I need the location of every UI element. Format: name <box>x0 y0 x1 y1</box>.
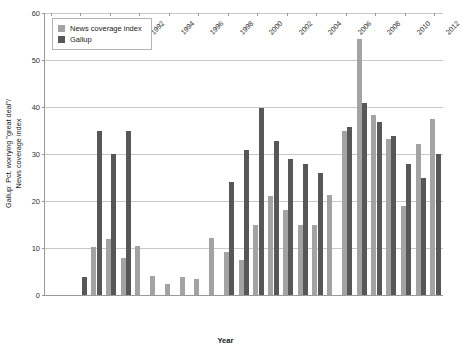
bar-gallup <box>97 131 102 295</box>
x-tick-label: 2012 <box>444 19 462 37</box>
x-tick-label: 2004 <box>326 19 344 37</box>
plot-area: 1986198819901992199419961998200020022004… <box>44 13 443 296</box>
gridline <box>45 13 443 14</box>
x-tick-mark <box>375 13 376 16</box>
legend-label: Gallup <box>70 35 92 44</box>
bar-news-coverage-index <box>253 225 258 296</box>
x-tick-mark <box>346 13 347 16</box>
bar-gallup <box>111 154 116 295</box>
x-tick-mark <box>228 13 229 16</box>
y-tick-label: 0 <box>20 291 40 300</box>
bar-gallup <box>377 122 382 295</box>
bar-gallup <box>259 108 264 295</box>
bar-gallup <box>436 154 441 295</box>
bar-gallup <box>288 159 293 295</box>
legend-item: News coverage index <box>58 23 142 34</box>
bar-news-coverage-index <box>327 195 332 295</box>
chart-legend: News coverage indexGallup <box>52 18 152 50</box>
gridline <box>45 107 443 108</box>
bar-gallup <box>244 150 249 295</box>
bar-news-coverage-index <box>135 246 140 295</box>
bar-news-coverage-index <box>91 247 96 295</box>
x-tick-mark <box>169 13 170 16</box>
bar-news-coverage-index <box>180 277 185 295</box>
legend-swatch-icon <box>58 25 65 32</box>
bar-news-coverage-index <box>268 196 273 295</box>
bar-news-coverage-index <box>150 276 155 295</box>
bar-gallup <box>347 127 352 295</box>
y-tick-label: 30 <box>20 150 40 159</box>
x-tick-label: 1994 <box>178 19 196 37</box>
bar-news-coverage-index <box>386 139 391 295</box>
y-tick-label: 10 <box>20 244 40 253</box>
gridline <box>45 60 443 61</box>
y-tick-mark <box>42 107 45 108</box>
bar-news-coverage-index <box>312 225 317 296</box>
x-tick-mark <box>80 13 81 16</box>
legend-label: News coverage index <box>70 24 142 33</box>
bar-gallup <box>274 141 279 295</box>
x-tick-mark <box>405 13 406 16</box>
x-tick-mark <box>198 13 199 16</box>
x-tick-mark <box>287 13 288 16</box>
x-tick-label: 2008 <box>385 19 403 37</box>
bar-gallup <box>229 182 234 295</box>
bar-news-coverage-index <box>430 119 435 295</box>
y-tick-mark <box>42 201 45 202</box>
x-tick-mark <box>51 13 52 16</box>
bar-gallup <box>303 164 308 295</box>
y-tick-mark <box>42 13 45 14</box>
x-tick-mark <box>434 13 435 16</box>
y-tick-label: 50 <box>20 56 40 65</box>
x-tick-label: 1996 <box>208 19 226 37</box>
x-tick-label: 2002 <box>296 19 314 37</box>
bar-news-coverage-index <box>209 238 214 295</box>
bar-news-coverage-index <box>239 260 244 295</box>
x-tick-mark <box>257 13 258 16</box>
bar-news-coverage-index <box>416 144 421 295</box>
bar-gallup <box>391 136 396 295</box>
bar-news-coverage-index <box>357 39 362 295</box>
bar-news-coverage-index <box>194 279 199 295</box>
x-tick-label: 2010 <box>414 19 432 37</box>
x-tick-mark <box>139 13 140 16</box>
x-tick-label: 1998 <box>237 19 255 37</box>
legend-item: Gallup <box>58 34 142 45</box>
x-tick-mark <box>110 13 111 16</box>
bar-gallup <box>318 173 323 295</box>
bar-news-coverage-index <box>401 206 406 295</box>
x-tick-label: 2000 <box>267 19 285 37</box>
bar-news-coverage-index <box>283 210 288 295</box>
bar-news-coverage-index <box>165 284 170 295</box>
y-tick-mark <box>42 248 45 249</box>
bar-gallup <box>421 178 426 295</box>
y-tick-mark <box>42 154 45 155</box>
bar-gallup <box>362 103 367 295</box>
y-tick-label: 60 <box>20 9 40 18</box>
bar-gallup <box>406 164 411 295</box>
y-tick-mark <box>42 295 45 296</box>
y-tick-label: 20 <box>20 197 40 206</box>
legend-swatch-icon <box>58 36 65 43</box>
bar-news-coverage-index <box>224 252 229 295</box>
bar-gallup <box>82 277 87 295</box>
bar-news-coverage-index <box>371 115 376 295</box>
bar-news-coverage-index <box>106 239 111 295</box>
x-tick-mark <box>316 13 317 16</box>
y-tick-label: 40 <box>20 103 40 112</box>
bar-news-coverage-index <box>342 131 347 295</box>
x-tick-label: 2006 <box>355 19 373 37</box>
y-tick-mark <box>42 60 45 61</box>
bar-news-coverage-index <box>298 225 303 295</box>
bar-news-coverage-index <box>121 258 126 295</box>
x-axis-title: Year <box>0 336 451 345</box>
bar-gallup <box>126 131 131 295</box>
